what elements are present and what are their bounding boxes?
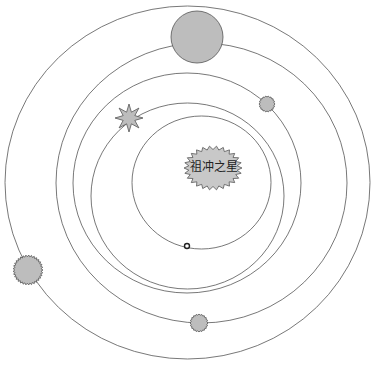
small-spiky-planet-icon bbox=[259, 96, 275, 112]
solar-system-diagram: 祖冲之星 bbox=[0, 0, 372, 369]
star-planet-icon bbox=[115, 104, 143, 132]
tiny-ring-planet-icon bbox=[185, 244, 190, 249]
bottom-spiky-planet-icon bbox=[190, 314, 208, 332]
diagram-canvas bbox=[0, 0, 372, 369]
sun-label: 祖冲之星 bbox=[183, 157, 245, 174]
orbit-2 bbox=[91, 103, 284, 289]
left-spiky-planet-icon bbox=[13, 255, 43, 285]
large-planet-icon bbox=[171, 11, 223, 63]
